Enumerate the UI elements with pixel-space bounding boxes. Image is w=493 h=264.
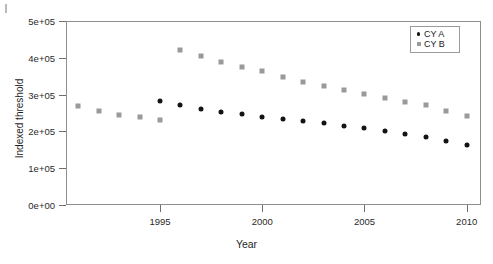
data-point-cy-b <box>342 87 347 92</box>
data-point-cy-b <box>382 96 387 101</box>
data-point-cy-a <box>219 110 224 115</box>
x-axis-title: Year <box>0 238 493 250</box>
data-point-cy-a <box>260 114 265 119</box>
data-point-cy-b <box>219 59 224 64</box>
y-axis-tick-label: 4e+05 <box>0 52 55 63</box>
data-point-cy-b <box>362 92 367 97</box>
data-point-cy-b <box>321 83 326 88</box>
data-point-cy-a <box>464 142 469 147</box>
y-axis-tick-label: 2e+05 <box>0 126 55 137</box>
data-point-cy-a <box>158 98 163 103</box>
data-point-cy-a <box>239 112 244 117</box>
y-axis-tick-label: 0e+00 <box>0 200 55 211</box>
data-point-cy-a <box>423 134 428 139</box>
data-point-cy-a <box>178 102 183 107</box>
legend-label: CY A <box>424 29 444 39</box>
data-point-cy-b <box>158 117 163 122</box>
data-point-cy-b <box>76 104 81 109</box>
data-point-cy-a <box>321 121 326 126</box>
data-point-cy-a <box>280 116 285 121</box>
y-axis-tick <box>59 21 66 22</box>
legend-item-cy-b: CY B <box>414 39 456 49</box>
data-point-cy-b <box>137 115 142 120</box>
data-point-cy-b <box>117 112 122 117</box>
y-axis-tick-label: 5e+05 <box>0 16 55 27</box>
x-axis-tick <box>364 205 365 212</box>
data-point-cy-b <box>444 108 449 113</box>
data-point-cy-b <box>423 102 428 107</box>
data-point-cy-a <box>198 106 203 111</box>
data-point-cy-a <box>301 119 306 124</box>
chart-legend: CY A CY B <box>410 26 460 53</box>
x-axis-tick-label: 2005 <box>339 216 389 227</box>
data-point-cy-b <box>239 64 244 69</box>
square-marker-icon <box>414 42 423 46</box>
data-point-cy-b <box>96 109 101 114</box>
data-point-cy-b <box>403 99 408 104</box>
data-point-cy-a <box>382 129 387 134</box>
scan-artifact <box>5 4 7 13</box>
x-axis-tick <box>467 205 468 212</box>
y-axis-tick <box>59 205 66 206</box>
y-axis-tick <box>59 95 66 96</box>
data-point-cy-a <box>342 123 347 128</box>
x-axis-tick <box>262 205 263 212</box>
y-axis-tick-label: 3e+05 <box>0 89 55 100</box>
x-axis-tick <box>160 205 161 212</box>
x-axis-tick-label: 2010 <box>442 216 492 227</box>
y-axis-tick <box>59 131 66 132</box>
x-axis-tick-label: 2000 <box>237 216 287 227</box>
data-point-cy-a <box>362 125 367 130</box>
y-axis-tick <box>59 58 66 59</box>
scatter-chart: Indexed threshold 0e+001e+052e+053e+054e… <box>0 0 493 264</box>
data-point-cy-a <box>403 132 408 137</box>
y-axis-tick-label: 1e+05 <box>0 163 55 174</box>
legend-label: CY B <box>424 39 445 49</box>
data-point-cy-b <box>178 48 183 53</box>
y-axis-tick <box>59 168 66 169</box>
data-point-cy-a <box>444 138 449 143</box>
data-point-cy-b <box>464 113 469 118</box>
data-point-cy-b <box>260 69 265 74</box>
x-axis-tick-label: 1995 <box>135 216 185 227</box>
data-point-cy-b <box>280 74 285 79</box>
data-point-cy-b <box>198 54 203 59</box>
circle-marker-icon <box>414 32 423 36</box>
data-point-cy-b <box>301 80 306 85</box>
legend-item-cy-a: CY A <box>414 29 456 39</box>
